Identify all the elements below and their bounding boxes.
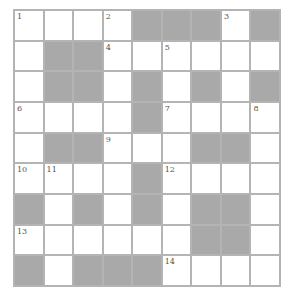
answer-cell[interactable]: 4 — [104, 42, 132, 71]
answer-cell[interactable] — [192, 103, 220, 132]
answer-cell[interactable] — [251, 195, 279, 224]
crossword-grid: 1234567891011121314 — [13, 9, 281, 287]
answer-cell[interactable] — [104, 195, 132, 224]
answer-cell[interactable] — [74, 103, 102, 132]
block-cell — [251, 11, 279, 40]
clue-number: 4 — [106, 43, 111, 52]
answer-cell[interactable] — [222, 256, 250, 285]
block-cell — [192, 11, 220, 40]
block-cell — [251, 72, 279, 101]
answer-cell[interactable]: 6 — [15, 103, 43, 132]
answer-cell[interactable] — [15, 42, 43, 71]
clue-number: 9 — [106, 135, 111, 144]
clue-number: 7 — [165, 104, 170, 113]
clue-number: 11 — [47, 165, 57, 174]
block-cell — [222, 134, 250, 163]
block-cell — [74, 72, 102, 101]
block-cell — [222, 226, 250, 255]
answer-cell[interactable] — [45, 11, 73, 40]
answer-cell[interactable] — [192, 256, 220, 285]
block-cell — [133, 11, 161, 40]
block-cell — [133, 72, 161, 101]
block-cell — [192, 134, 220, 163]
answer-cell[interactable] — [163, 72, 191, 101]
clue-number: 14 — [165, 257, 175, 266]
block-cell — [74, 256, 102, 285]
answer-cell[interactable] — [251, 226, 279, 255]
clue-number: 5 — [165, 43, 170, 52]
answer-cell[interactable] — [222, 103, 250, 132]
block-cell — [74, 134, 102, 163]
answer-cell[interactable] — [45, 103, 73, 132]
answer-cell[interactable] — [222, 42, 250, 71]
clue-number: 1 — [17, 12, 22, 21]
clue-number: 12 — [165, 165, 175, 174]
answer-cell[interactable] — [15, 72, 43, 101]
answer-cell[interactable]: 11 — [45, 164, 73, 193]
answer-cell[interactable] — [104, 164, 132, 193]
block-cell — [15, 195, 43, 224]
answer-cell[interactable]: 9 — [104, 134, 132, 163]
answer-cell[interactable] — [163, 226, 191, 255]
block-cell — [74, 195, 102, 224]
answer-cell[interactable] — [104, 103, 132, 132]
block-cell — [133, 256, 161, 285]
answer-cell[interactable] — [45, 195, 73, 224]
answer-cell[interactable] — [15, 134, 43, 163]
answer-cell[interactable] — [251, 164, 279, 193]
block-cell — [222, 195, 250, 224]
clue-number: 13 — [17, 227, 27, 236]
clue-number: 2 — [106, 12, 111, 21]
answer-cell[interactable] — [192, 42, 220, 71]
block-cell — [192, 72, 220, 101]
answer-cell[interactable]: 13 — [15, 226, 43, 255]
answer-cell[interactable] — [133, 42, 161, 71]
answer-cell[interactable] — [222, 72, 250, 101]
block-cell — [133, 103, 161, 132]
clue-number: 6 — [17, 104, 22, 113]
block-cell — [45, 42, 73, 71]
answer-cell[interactable] — [74, 164, 102, 193]
answer-cell[interactable] — [192, 164, 220, 193]
block-cell — [192, 195, 220, 224]
answer-cell[interactable]: 10 — [15, 164, 43, 193]
clue-number: 10 — [17, 165, 27, 174]
block-cell — [163, 11, 191, 40]
answer-cell[interactable] — [74, 11, 102, 40]
block-cell — [192, 226, 220, 255]
answer-cell[interactable] — [104, 72, 132, 101]
answer-cell[interactable] — [104, 226, 132, 255]
answer-cell[interactable] — [222, 164, 250, 193]
answer-cell[interactable] — [163, 134, 191, 163]
answer-cell[interactable]: 12 — [163, 164, 191, 193]
answer-cell[interactable]: 1 — [15, 11, 43, 40]
answer-cell[interactable] — [251, 256, 279, 285]
answer-cell[interactable] — [163, 195, 191, 224]
answer-cell[interactable] — [45, 226, 73, 255]
block-cell — [133, 164, 161, 193]
answer-cell[interactable] — [133, 226, 161, 255]
block-cell — [74, 42, 102, 71]
answer-cell[interactable]: 14 — [163, 256, 191, 285]
clue-number: 3 — [224, 12, 229, 21]
answer-cell[interactable] — [74, 226, 102, 255]
answer-cell[interactable]: 5 — [163, 42, 191, 71]
clue-number: 8 — [253, 104, 258, 113]
answer-cell[interactable]: 3 — [222, 11, 250, 40]
answer-cell[interactable]: 8 — [251, 103, 279, 132]
block-cell — [104, 256, 132, 285]
answer-cell[interactable] — [45, 256, 73, 285]
answer-cell[interactable] — [251, 134, 279, 163]
block-cell — [45, 134, 73, 163]
answer-cell[interactable] — [133, 134, 161, 163]
answer-cell[interactable]: 2 — [104, 11, 132, 40]
block-cell — [133, 195, 161, 224]
block-cell — [45, 72, 73, 101]
answer-cell[interactable]: 7 — [163, 103, 191, 132]
block-cell — [15, 256, 43, 285]
answer-cell[interactable] — [251, 42, 279, 71]
